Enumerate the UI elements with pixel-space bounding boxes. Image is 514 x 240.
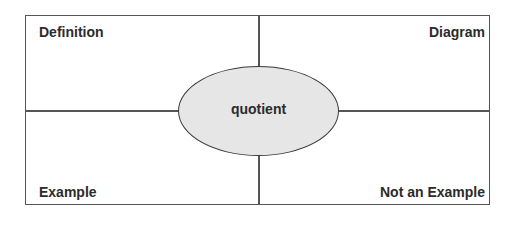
- quadrant-label-not-an-example: Not an Example: [380, 184, 485, 200]
- center-term-ellipse: quotient: [178, 66, 339, 156]
- quadrant-label-example: Example: [39, 184, 97, 200]
- quadrant-label-definition: Definition: [39, 24, 104, 40]
- quadrant-label-diagram: Diagram: [429, 24, 485, 40]
- center-term-label: quotient: [231, 101, 286, 117]
